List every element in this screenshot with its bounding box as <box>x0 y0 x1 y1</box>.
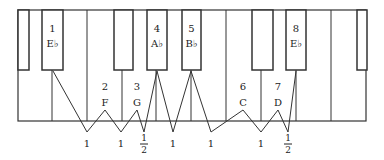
scale-degree-label: 8 <box>293 23 299 34</box>
note-name-label: F <box>102 97 109 108</box>
black-key: 1E♭ <box>42 10 63 70</box>
black-key <box>357 10 367 70</box>
scale-degree-label: 4 <box>154 23 160 34</box>
note-name-label: C <box>239 97 247 108</box>
svg-text:1: 1 <box>118 138 124 149</box>
half-step-label: 12 <box>284 133 292 155</box>
svg-text:1: 1 <box>258 138 264 149</box>
black-key <box>252 10 273 70</box>
scale-degree-label: 1 <box>49 23 55 34</box>
note-name-label: D <box>274 97 282 108</box>
svg-text:2: 2 <box>285 145 291 155</box>
half-step-label: 12 <box>140 133 148 155</box>
svg-text:1: 1 <box>141 133 147 143</box>
whole-step-label: 1 <box>170 138 176 149</box>
svg-text:1: 1 <box>84 138 90 149</box>
whole-step-label: 1 <box>208 138 214 149</box>
black-key <box>18 10 29 70</box>
scale-degree-label: 7 <box>275 81 281 92</box>
black-key <box>114 10 133 70</box>
black-key: 8E♭ <box>286 10 306 70</box>
scale-degree-label: 3 <box>134 81 140 92</box>
scale-degree-label: 5 <box>188 23 194 34</box>
black-key: 5B♭ <box>182 10 201 70</box>
scale-degree-label: 2 <box>102 81 108 92</box>
interval-labels: 111211112 <box>84 133 292 155</box>
svg-text:1: 1 <box>285 133 291 143</box>
piano-scale-diagram: 1E♭4A♭5B♭8E♭ 2F3G6C7D 111211112 <box>0 0 384 160</box>
note-name-label: E♭ <box>46 38 58 49</box>
note-name-label: G <box>133 97 141 108</box>
svg-text:1: 1 <box>170 138 176 149</box>
note-name-label: A♭ <box>150 38 163 49</box>
whole-step-label: 1 <box>84 138 90 149</box>
whole-step-label: 1 <box>118 138 124 149</box>
black-key: 4A♭ <box>147 10 167 70</box>
whole-step-label: 1 <box>258 138 264 149</box>
svg-text:2: 2 <box>141 145 147 155</box>
scale-degree-label: 6 <box>240 81 246 92</box>
note-name-label: B♭ <box>185 38 197 49</box>
svg-text:1: 1 <box>208 138 214 149</box>
note-name-label: E♭ <box>290 38 302 49</box>
